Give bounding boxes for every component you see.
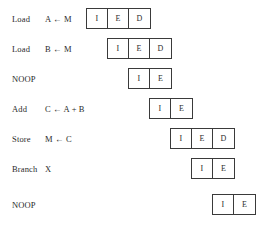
stage-cell: I xyxy=(108,39,129,58)
stage-cell: E xyxy=(108,9,129,28)
instruction-operand: M ← C xyxy=(45,128,72,150)
instruction-label: Add xyxy=(12,98,27,120)
pipeline-row: StoreM ← CIED xyxy=(0,128,274,150)
stage-cell: I xyxy=(171,129,192,148)
instruction-operand: B ← M xyxy=(45,38,72,60)
stage-cell: I xyxy=(150,99,171,118)
instruction-operand: C ← A + B xyxy=(45,98,85,120)
instruction-label: Load xyxy=(12,38,30,60)
stage-cell: D xyxy=(129,9,150,28)
pipeline-row: NOOPIE xyxy=(0,68,274,90)
pipeline-timing-diagram: LoadA ← MIEDLoadB ← MIEDNOOPIEAddC ← A +… xyxy=(0,0,274,232)
instruction-label: NOOP xyxy=(12,194,36,216)
stage-cell: E xyxy=(171,99,192,118)
pipeline-row: AddC ← A + BIE xyxy=(0,98,274,120)
pipeline-row: LoadB ← MIED xyxy=(0,38,274,60)
stage-cell: I xyxy=(192,159,213,178)
stage-cell: I xyxy=(129,69,150,88)
stage-box-group: IE xyxy=(128,68,172,89)
stage-cell: D xyxy=(213,129,234,148)
pipeline-row: BranchXIE xyxy=(0,158,274,180)
stage-box-group: IED xyxy=(86,8,151,29)
instruction-label: Load xyxy=(12,8,30,30)
instruction-operand: A ← M xyxy=(45,8,72,30)
instruction-label: NOOP xyxy=(12,68,36,90)
stage-cell: E xyxy=(129,39,150,58)
instruction-label: Store xyxy=(12,128,31,150)
stage-cell: E xyxy=(234,195,255,214)
pipeline-row: NOOPIE xyxy=(0,194,274,216)
stage-cell: E xyxy=(150,69,171,88)
stage-cell: E xyxy=(213,159,234,178)
stage-box-group: IED xyxy=(107,38,172,59)
stage-cell: I xyxy=(213,195,234,214)
stage-box-group: IE xyxy=(149,98,193,119)
stage-cell: I xyxy=(87,9,108,28)
instruction-label: Branch xyxy=(12,158,37,180)
stage-box-group: IE xyxy=(212,194,256,215)
stage-box-group: IE xyxy=(191,158,235,179)
stage-cell: E xyxy=(192,129,213,148)
stage-box-group: IED xyxy=(170,128,235,149)
pipeline-row: LoadA ← MIED xyxy=(0,8,274,30)
stage-cell: D xyxy=(150,39,171,58)
instruction-operand: X xyxy=(45,158,51,180)
